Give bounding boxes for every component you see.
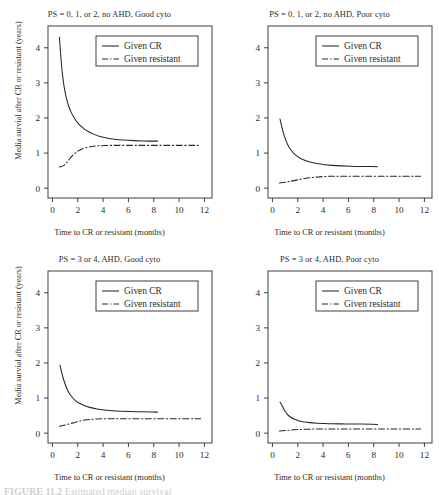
x-tick-label: 6 [126,205,131,215]
plot-svg: 02468101201234Given CRGiven resistant [0,0,219,240]
x-tick-label: 8 [371,450,376,460]
x-tick-label: 0 [50,450,55,460]
legend-label: Given CR [344,286,383,296]
x-tick-label: 0 [270,205,275,215]
y-tick-label: 4 [255,288,260,298]
caption-label: FIGURE 11.2 [4,486,62,495]
series-line-given-cr [280,119,378,167]
y-tick-label: 0 [255,429,260,439]
y-tick-label: 3 [255,78,260,88]
x-tick-label: 0 [50,205,55,215]
figure-container: PS = 0, 1, or 2, no AHD, Good cyto Media… [0,0,439,495]
y-tick-label: 2 [35,358,40,368]
legend-label: Given resistant [124,299,181,309]
x-tick-label: 10 [394,450,404,460]
series-line-given-cr [280,402,378,424]
legend-label: Given CR [124,41,163,51]
series-line-given-resistant [59,419,200,426]
series-line-given-resistant [279,176,420,183]
x-tick-label: 2 [75,450,80,460]
x-tick-label: 4 [321,450,326,460]
y-tick-label: 1 [255,393,260,403]
x-tick-label: 12 [420,205,430,215]
plot-svg: 02468101201234Given CRGiven resistant [0,245,219,485]
x-tick-label: 6 [346,205,351,215]
series-line-given-resistant [59,145,200,167]
figure-caption: FIGURE 11.2 Estimated median survival [4,486,171,495]
y-tick-label: 4 [35,43,40,53]
y-tick-label: 3 [35,323,40,333]
x-tick-label: 2 [295,205,300,215]
x-tick-label: 8 [151,205,156,215]
y-tick-label: 2 [255,113,260,123]
x-tick-label: 12 [420,450,430,460]
y-tick-label: 0 [255,184,260,194]
x-tick-label: 2 [295,450,300,460]
series-line-given-cr [60,365,158,412]
y-tick-label: 0 [35,429,40,439]
legend-label: Given resistant [124,54,181,64]
x-tick-label: 4 [101,205,106,215]
x-axis-label: Time to CR or resistant (months) [0,228,219,237]
y-tick-label: 4 [35,288,40,298]
x-tick-label: 2 [75,205,80,215]
panel-top-left: PS = 0, 1, or 2, no AHD, Good cyto Media… [0,0,219,240]
panel-top-right: PS = 0, 1, or 2, no AHD, Poor cyto 02468… [220,0,439,240]
plot-svg: 02468101201234Given CRGiven resistant [220,0,439,240]
x-tick-label: 10 [174,205,184,215]
x-tick-label: 4 [321,205,326,215]
y-tick-label: 1 [35,148,40,158]
x-tick-label: 8 [151,450,156,460]
y-tick-label: 4 [255,43,260,53]
y-tick-label: 1 [255,148,260,158]
x-tick-label: 12 [200,205,210,215]
y-tick-label: 3 [35,78,40,88]
x-axis-label: Time to CR or resistant (months) [220,228,439,237]
y-tick-label: 2 [255,358,260,368]
x-axis-label: Time to CR or resistant (months) [0,473,219,482]
panel-bottom-left: PS = 3 or 4, AHD, Good cyto Media survia… [0,245,219,485]
plot-svg: 02468101201234Given CRGiven resistant [220,245,439,485]
y-tick-label: 3 [255,323,260,333]
series-line-given-resistant [279,429,420,431]
x-tick-label: 10 [394,205,404,215]
x-tick-label: 6 [126,450,131,460]
x-axis-label: Time to CR or resistant (months) [220,473,439,482]
x-tick-label: 6 [346,450,351,460]
x-tick-label: 10 [174,450,184,460]
y-tick-label: 2 [35,113,40,123]
panel-bottom-right: PS = 3 or 4, AHD, Poor cyto 024681012012… [220,245,439,485]
legend-label: Given CR [344,41,383,51]
x-tick-label: 0 [270,450,275,460]
y-tick-label: 0 [35,184,40,194]
y-tick-label: 1 [35,393,40,403]
legend-label: Given CR [124,286,163,296]
legend-label: Given resistant [344,54,401,64]
caption-text: Estimated median survival [65,486,172,495]
x-tick-label: 8 [371,205,376,215]
x-tick-label: 4 [101,450,106,460]
legend-label: Given resistant [344,299,401,309]
x-tick-label: 12 [200,450,210,460]
